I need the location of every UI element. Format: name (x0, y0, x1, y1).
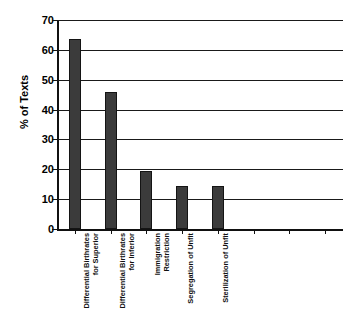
y-tick-label: 20 (32, 164, 54, 175)
y-tick-label: 50 (32, 74, 54, 85)
gridline (57, 139, 343, 140)
x-axis-category-labels: Differential Birthratesfor SuperiorDiffe… (57, 233, 343, 322)
y-tick-mark (52, 50, 58, 51)
x-tick-label-line: Differential Birthrates (82, 233, 91, 319)
y-axis-tick-labels: 010203040506070 (24, 0, 54, 322)
bar (176, 186, 188, 229)
bar (140, 171, 152, 229)
gridline (57, 80, 343, 81)
x-tick-label: ImmigrationRestriction (153, 233, 171, 319)
x-tick-label: Segregation of Unfit (186, 233, 195, 319)
x-tick-label-line: Restriction (163, 233, 172, 319)
x-tick-label-line: Immigration (153, 233, 162, 319)
y-tick-label: 0 (32, 224, 54, 235)
y-tick-label: 40 (32, 104, 54, 115)
x-tick-label: Sterilization of Unfit (221, 233, 230, 319)
plot-area (57, 20, 343, 229)
gridline (57, 169, 343, 170)
x-tick-label: Differential Birthratesfor Superior (82, 233, 100, 319)
y-axis-line (57, 20, 59, 229)
x-tick-label-line: for Inferior (127, 233, 136, 319)
y-tick-mark (52, 229, 58, 230)
bar (105, 92, 117, 229)
gridline (57, 20, 343, 21)
gridline (57, 199, 343, 200)
y-tick-label: 10 (32, 194, 54, 205)
bar (69, 39, 81, 229)
y-tick-mark (52, 80, 58, 81)
x-tick-label-line: Sterilization of Unfit (221, 233, 230, 319)
y-tick-mark (52, 139, 58, 140)
x-tick-label: Differential Birthratesfor Inferior (118, 233, 136, 319)
x-axis-line (57, 229, 343, 231)
x-tick-label-line: for Superior (91, 233, 100, 319)
y-tick-mark (52, 20, 58, 21)
bar (212, 186, 224, 229)
y-tick-label: 60 (32, 44, 54, 55)
y-tick-mark (52, 169, 58, 170)
x-tick-label-line: Differential Birthrates (118, 233, 127, 319)
y-tick-label: 30 (32, 134, 54, 145)
y-tick-mark (52, 110, 58, 111)
y-tick-mark (52, 199, 58, 200)
gridline (57, 110, 343, 111)
y-tick-label: 70 (32, 15, 54, 26)
gridline (57, 50, 343, 51)
bar-chart: % of Texts 010203040506070 Differential … (0, 0, 359, 322)
x-tick-label-line: Segregation of Unfit (186, 233, 195, 319)
